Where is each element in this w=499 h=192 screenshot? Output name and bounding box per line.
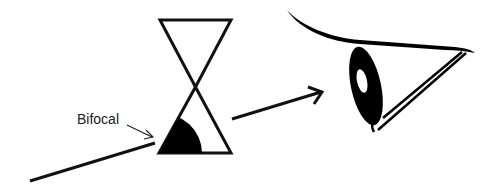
bifocal-segment	[159, 113, 202, 153]
lens-upper-triangle	[160, 20, 231, 87]
bifocal-pointer-arrowhead	[144, 130, 153, 139]
bifocal-pointer-line	[127, 125, 152, 137]
outgoing-light-ray	[232, 92, 321, 119]
eye-lower-lid-outer	[378, 53, 466, 130]
bifocal-diagram: Bifocal	[0, 0, 499, 192]
eye-upper-lid	[287, 10, 475, 53]
bifocal-label: Bifocal	[77, 111, 119, 127]
eye-lower-lid-inner	[383, 52, 462, 118]
incoming-light-ray	[30, 143, 155, 181]
